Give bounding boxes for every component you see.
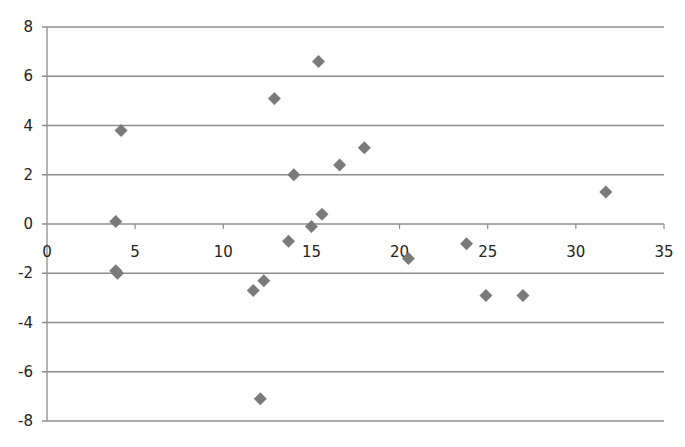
- data-point-diamond: [305, 220, 318, 233]
- y-tick-label: 6: [23, 67, 33, 85]
- data-point-diamond: [312, 55, 325, 68]
- data-point-diamond: [109, 215, 122, 228]
- y-tick-label: 8: [23, 18, 33, 36]
- x-tick-label: 5: [130, 243, 140, 261]
- y-tick-label: -8: [18, 412, 33, 430]
- y-tick-label: -4: [18, 314, 33, 332]
- data-point-diamond: [282, 235, 295, 248]
- data-point-diamond: [254, 392, 267, 405]
- y-tick-label: 0: [23, 215, 33, 233]
- scatter-chart: 86420-2-4-6-8 05101520253035: [0, 0, 685, 447]
- data-point-diamond: [516, 289, 529, 302]
- x-tick-label: 0: [42, 243, 52, 261]
- y-tick-label: 2: [23, 166, 33, 184]
- data-point-diamond: [247, 284, 260, 297]
- x-axis: 05101520253035: [42, 224, 673, 261]
- y-tick-label: -6: [18, 363, 33, 381]
- data-point-diamond: [268, 92, 281, 105]
- data-point-diamond: [479, 289, 492, 302]
- data-point-diamond: [333, 158, 346, 171]
- data-point-diamond: [316, 208, 329, 221]
- y-tick-label: -2: [18, 264, 33, 282]
- y-tick-label: 4: [23, 117, 33, 135]
- data-point-diamond: [287, 168, 300, 181]
- data-point-diamond: [460, 237, 473, 250]
- data-point-diamond: [358, 141, 371, 154]
- x-tick-label: 10: [214, 243, 233, 261]
- x-tick-label: 30: [566, 243, 585, 261]
- data-point-diamond: [599, 185, 612, 198]
- data-points: [109, 55, 612, 405]
- x-tick-label: 15: [302, 243, 321, 261]
- x-tick-label: 35: [654, 243, 673, 261]
- data-point-diamond: [257, 274, 270, 287]
- x-tick-label: 25: [478, 243, 497, 261]
